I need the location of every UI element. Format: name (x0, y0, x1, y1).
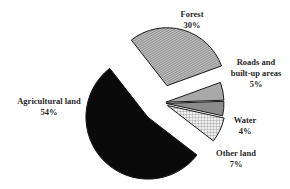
label-water-pct: 4% (228, 126, 262, 137)
slice-agricultural-land (86, 68, 197, 179)
label-roads-pct: 5% (225, 79, 287, 90)
label-water: Water 4% (228, 115, 262, 137)
label-other-name: Other land (210, 148, 262, 159)
slice-roads (166, 82, 224, 102)
label-roads-line2: built-up areas (225, 68, 287, 79)
label-forest: Forest 30% (172, 9, 212, 31)
slice-forest (131, 28, 221, 86)
label-other: Other land 7% (210, 148, 262, 170)
label-roads: Roads and built-up areas 5% (225, 57, 287, 90)
label-agri-pct: 54% (12, 107, 86, 118)
label-other-pct: 7% (210, 159, 262, 170)
label-forest-pct: 30% (172, 20, 212, 31)
label-agri-name: Agricultural land (12, 96, 86, 107)
label-water-name: Water (228, 115, 262, 126)
label-roads-line1: Roads and (225, 57, 287, 68)
label-agri: Agricultural land 54% (12, 96, 86, 118)
label-forest-name: Forest (172, 9, 212, 20)
